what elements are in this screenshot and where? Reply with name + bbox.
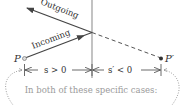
incoming-ray-tail: [84, 33, 92, 36]
object-distance-label: s > 0: [44, 65, 66, 75]
callout-curve-left: [6, 70, 22, 105]
image-point-marker: [159, 57, 163, 61]
object-point-label: P: [13, 53, 21, 64]
caption-text: In both of these specific cases:: [25, 85, 158, 95]
image-point-label: P′: [164, 53, 175, 64]
outgoing-label: Outgoing: [39, 0, 80, 20]
object-point-marker: [23, 57, 27, 61]
image-distance-label: s′ < 0: [108, 65, 132, 75]
incoming-label: Incoming: [30, 27, 72, 51]
callout-curve-right: [164, 70, 179, 105]
reflection-diagram: P P′ Outgoing Incoming s > 0 s′ < 0 In b…: [0, 0, 183, 105]
callout-arrow-right: [164, 69, 167, 72]
virtual-ray-extension: [92, 33, 161, 59]
callout-arrow-left: [19, 69, 22, 72]
